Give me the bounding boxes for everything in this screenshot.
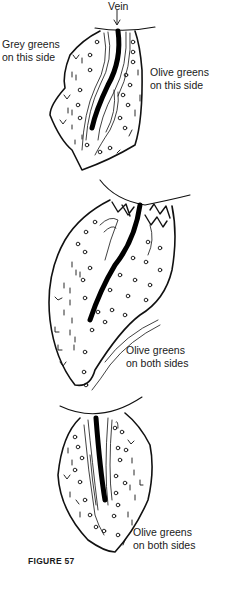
label-olive-greens-right: Olive greens on this side: [150, 66, 209, 92]
figure-caption: FIGURE 57: [28, 556, 75, 566]
label-grey-greens: Grey greens on this side: [2, 38, 60, 64]
leaf-1: [50, 10, 155, 170]
label-olive-greens-leaf3: Olive greens on both sides: [133, 526, 195, 552]
label-vein: Vein: [108, 0, 128, 13]
label-olive-greens-leaf2: Olive greens on both sides: [126, 344, 188, 370]
